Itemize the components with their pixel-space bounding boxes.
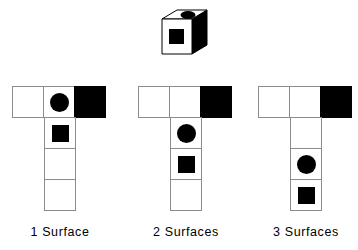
net-diagram-1 <box>12 86 105 211</box>
net-1-cell-col-1 <box>44 148 76 180</box>
net-3-cell-col-1 <box>290 148 322 180</box>
net-2-cell-col-2 <box>170 179 202 211</box>
net-1-cell-col-0 <box>44 117 76 149</box>
net-1-cell-col-2 <box>44 179 76 211</box>
net-1-top-row <box>12 86 105 118</box>
net-1-cell-top-1 <box>43 86 75 118</box>
square-mark <box>298 187 315 204</box>
reference-cube <box>157 7 211 63</box>
net-1-caption: 1 Surface <box>12 225 108 239</box>
net-2-top-row <box>138 86 231 118</box>
cube-top-ellipse-mark <box>181 11 196 19</box>
net-3-cell-col-0 <box>290 117 322 149</box>
net-1-column <box>44 118 105 211</box>
net-2-cell-top-0 <box>138 86 170 118</box>
net-1-cell-top-2 <box>74 86 106 118</box>
circle-mark <box>297 155 316 174</box>
net-3-cell-top-2 <box>320 86 352 118</box>
net-2-cell-top-2 <box>200 86 232 118</box>
square-mark <box>178 156 195 173</box>
net-3-cell-top-0 <box>258 86 290 118</box>
net-3-cell-top-1 <box>289 86 321 118</box>
circle-mark <box>50 93 69 112</box>
net-1-cell-top-0 <box>12 86 44 118</box>
circle-mark <box>177 124 196 143</box>
net-3-cell-col-2 <box>290 179 322 211</box>
net-3-column <box>290 118 351 211</box>
net-2-caption: 2 Surfaces <box>138 225 234 239</box>
net-3-caption: 3 Surfaces <box>258 225 354 239</box>
net-2-cell-top-1 <box>169 86 201 118</box>
net-2-column <box>170 118 231 211</box>
net-diagram-2 <box>138 86 231 211</box>
net-2-cell-col-1 <box>170 148 202 180</box>
cube-svg <box>157 7 211 63</box>
net-3-top-row <box>258 86 351 118</box>
square-mark <box>52 125 69 142</box>
cube-front-square-mark <box>169 29 184 44</box>
net-2-cell-col-0 <box>170 117 202 149</box>
net-diagram-3 <box>258 86 351 211</box>
